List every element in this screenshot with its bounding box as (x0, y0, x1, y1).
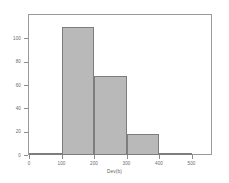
y-tick-label: 0 (0, 153, 21, 158)
y-tick-label: 20 (0, 129, 21, 134)
x-tick-mark (94, 155, 95, 159)
plot-area (29, 15, 211, 155)
x-tick-label: 100 (47, 161, 77, 166)
x-tick-mark (29, 155, 30, 159)
x-tick-label: 400 (144, 161, 174, 166)
x-tick-mark (192, 155, 193, 159)
x-tick-label: 200 (79, 161, 109, 166)
x-tick-mark (159, 155, 160, 159)
x-tick-mark (127, 155, 128, 159)
histogram-chart: 0204060801000100200300400500 Dev(b) (0, 0, 229, 183)
y-tick-label: 60 (0, 83, 21, 88)
y-tick-label: 100 (0, 36, 21, 41)
bar-bin-0-100 (29, 153, 62, 155)
y-tick-label: 40 (0, 106, 21, 111)
bar-bin-300-400 (127, 134, 160, 155)
x-tick-label: 0 (14, 161, 44, 166)
x-tick-label: 300 (112, 161, 142, 166)
bar-bin-100-200 (62, 27, 95, 155)
x-tick-mark (62, 155, 63, 159)
y-tick-mark (24, 155, 28, 156)
y-tick-label: 80 (0, 59, 21, 64)
x-tick-label: 500 (177, 161, 207, 166)
x-axis-title: Dev(b) (0, 169, 229, 175)
bar-bin-200-300 (94, 76, 127, 155)
bar-bin-400-500 (159, 153, 192, 155)
